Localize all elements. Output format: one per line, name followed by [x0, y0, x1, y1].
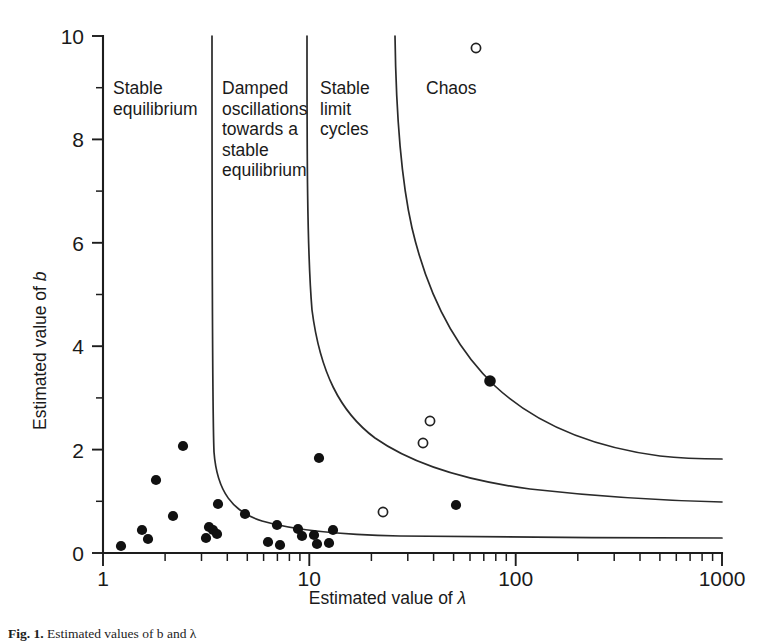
- x-axis-title-text: Estimated value of λ: [309, 588, 466, 608]
- data-point: [324, 538, 334, 548]
- x-axis-minor-ticks: [165, 553, 713, 561]
- x-tick-label-10: 10: [298, 567, 321, 590]
- data-point: [213, 499, 223, 509]
- y-tick-label-10: 10: [61, 25, 84, 48]
- limitcycle-chaos-boundary: [395, 36, 722, 459]
- filled-data-points: [116, 375, 496, 551]
- y-axis-title-text: Estimated value of b: [30, 271, 50, 430]
- y-tick-label-0: 0: [72, 542, 84, 565]
- figure-caption: Fig. 1. Estimated values of b and λ: [8, 626, 768, 642]
- data-point: [263, 537, 273, 547]
- data-point: [314, 453, 324, 463]
- data-point: [275, 540, 285, 550]
- x-axis-major-ticks: [103, 553, 722, 566]
- y-tick-label-4: 4: [72, 335, 84, 358]
- caption-text: Estimated values of b and λ: [47, 626, 196, 641]
- data-point: [212, 529, 222, 539]
- data-point: [425, 416, 434, 425]
- y-tick-label-2: 2: [72, 439, 84, 462]
- caption-label: Fig. 1.: [8, 626, 44, 641]
- data-point: [312, 539, 322, 549]
- region-label-stable-limit-cycles: Stable limit cycles: [320, 78, 398, 140]
- x-tick-label-100: 100: [498, 567, 533, 590]
- data-point: [137, 525, 147, 535]
- region-label-damped-oscillations: Damped oscillations towards a stable equ…: [222, 78, 314, 181]
- data-point: [143, 534, 153, 544]
- region-label-chaos: Chaos: [426, 78, 506, 99]
- y-axis-title: Estimated value of b: [30, 271, 51, 430]
- data-point: [151, 475, 161, 485]
- data-point: [116, 541, 126, 551]
- data-point: [378, 507, 387, 516]
- data-point: [328, 525, 338, 535]
- region-label-stable-equilibrium: Stable equilibrium: [113, 78, 208, 119]
- data-point: [297, 531, 307, 541]
- data-point: [451, 500, 461, 510]
- data-point: [272, 520, 282, 530]
- data-point: [484, 375, 496, 387]
- y-tick-label-8: 8: [72, 128, 84, 151]
- data-point: [168, 511, 178, 521]
- y-tick-label-6: 6: [72, 232, 84, 255]
- data-point: [201, 533, 211, 543]
- x-tick-label-1: 1: [97, 567, 109, 590]
- data-point: [178, 441, 188, 451]
- data-point: [418, 438, 427, 447]
- figure-panel: 0 2 4 6 8 10: [0, 0, 775, 642]
- data-point: [240, 509, 250, 519]
- x-axis-title: Estimated value of λ: [0, 588, 775, 609]
- data-point: [309, 530, 319, 540]
- data-point: [471, 43, 480, 52]
- x-tick-label-1000: 1000: [699, 567, 746, 590]
